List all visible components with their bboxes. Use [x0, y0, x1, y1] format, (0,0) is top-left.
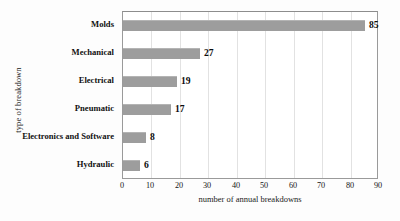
bar-chart: type of breakdown MoldsMechanicalElectri…	[0, 0, 400, 221]
x-tick-label: 80	[346, 181, 354, 190]
bar	[123, 20, 365, 31]
x-tick-label: 50	[260, 181, 268, 190]
bar	[123, 48, 200, 59]
x-tick-label: 60	[289, 181, 297, 190]
bar-value-label: 8	[150, 131, 155, 143]
gridline	[294, 12, 295, 178]
x-tick-label: 30	[203, 181, 211, 190]
bar-value-label: 6	[144, 159, 149, 171]
x-tick-label: 10	[146, 181, 154, 190]
gridline	[265, 12, 266, 178]
gridline	[237, 12, 238, 178]
x-tick-label: 20	[175, 181, 183, 190]
category-label: Pneumatic	[75, 102, 114, 114]
plot-area: 8527191786	[122, 11, 378, 179]
category-label: Hydraulic	[77, 158, 114, 170]
x-tick-label: 90	[374, 181, 382, 190]
bar	[123, 76, 177, 87]
bar-value-label: 17	[175, 103, 185, 115]
bar-value-label: 19	[181, 75, 191, 87]
bar	[123, 160, 140, 171]
x-tick-label: 0	[120, 181, 124, 190]
gridline	[351, 12, 352, 178]
x-axis-tick-labels: 0102030405060708090	[122, 181, 378, 193]
bar-value-label: 27	[204, 47, 214, 59]
gridline	[208, 12, 209, 178]
category-axis-labels: MoldsMechanicalElectricalPneumaticElectr…	[0, 11, 118, 179]
gridline	[151, 12, 152, 178]
x-axis-title: number of annual breakdowns	[122, 194, 378, 204]
category-label: Mechanical	[72, 46, 114, 58]
gridline	[180, 12, 181, 178]
bar	[123, 132, 146, 143]
category-label: Electronics and Software	[22, 130, 114, 142]
bar	[123, 104, 171, 115]
bar-value-label: 85	[369, 19, 379, 31]
x-tick-label: 70	[317, 181, 325, 190]
x-tick-label: 40	[232, 181, 240, 190]
category-label: Electrical	[79, 74, 114, 86]
gridline	[322, 12, 323, 178]
category-label: Molds	[91, 18, 114, 30]
